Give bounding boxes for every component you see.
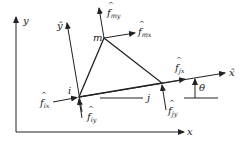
local-x-label: x̂ [229,68,235,78]
global-x-label: x [187,127,193,137]
diagram-svg [0,0,245,145]
node-label-m: m [93,33,102,43]
force-label-mx: fmx [138,27,152,39]
force-label-ix: fix [40,98,49,110]
force-arrow-jy [162,85,166,110]
force-arrow-mx [104,33,135,38]
force-label-jy: fjy [168,106,177,118]
local-y-label: ŷ [57,21,63,31]
node-label-i: i [68,86,71,96]
node-label-j: j [147,93,150,103]
angle-label-theta: θ [199,83,205,93]
force-label-my: fmy [107,8,121,20]
triangle-element [79,38,162,97]
diagram-canvas: y x ŷ x̂ m i j fmy fmx fjx fjy fix fiy θ [0,0,245,145]
force-label-iy: fiy [87,112,96,124]
global-y-label: y [23,16,29,26]
force-arrow-ix [53,98,77,103]
force-arrow-jx [162,79,185,83]
force-label-jx: fjx [175,63,184,75]
